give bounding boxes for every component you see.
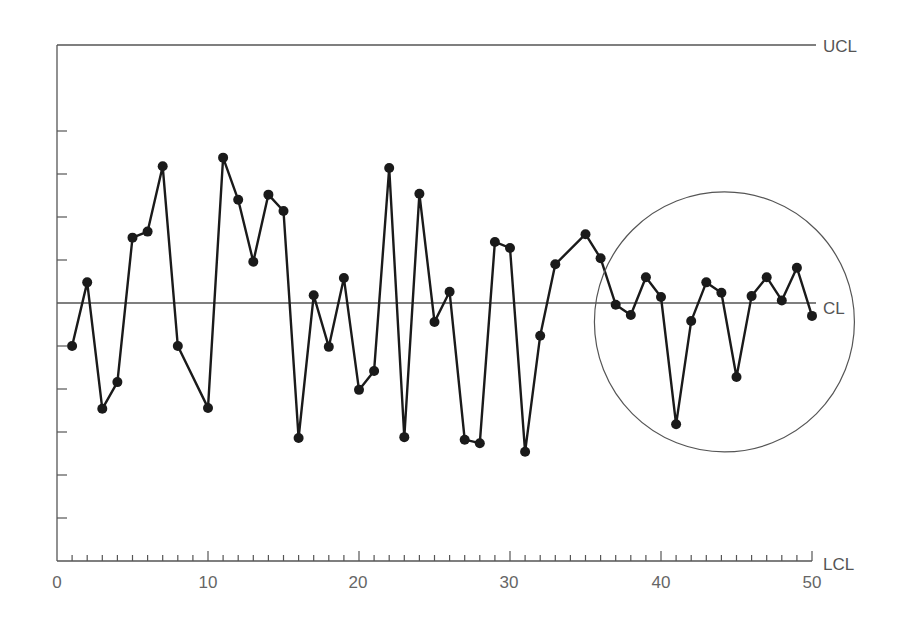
data-point (611, 300, 621, 310)
data-point (777, 295, 787, 305)
data-point (233, 195, 243, 205)
data-point (384, 163, 394, 173)
lcl-label: LCL (823, 555, 854, 574)
annotations (594, 192, 854, 452)
data-point (520, 447, 530, 457)
control-chart: UCL CL LCL 0 10 20 30 40 50 (0, 0, 917, 627)
data-point (218, 153, 228, 163)
data-point (414, 189, 424, 199)
data-point (505, 243, 515, 253)
data-point (445, 287, 455, 297)
data-point (263, 190, 273, 200)
data-point (686, 316, 696, 326)
data-point (248, 257, 258, 267)
data-point (460, 435, 470, 445)
data-point (173, 341, 183, 351)
cl-label: CL (823, 299, 845, 318)
data-point (716, 288, 726, 298)
data-point (656, 292, 666, 302)
data-point (339, 273, 349, 283)
data-point (294, 433, 304, 443)
x-tick-label-30: 30 (500, 573, 519, 592)
data-point (309, 290, 319, 300)
data-point (732, 372, 742, 382)
data-point (792, 263, 802, 273)
x-tick-label-50: 50 (803, 573, 822, 592)
data-point (671, 419, 681, 429)
data-series (67, 153, 817, 457)
data-point (641, 272, 651, 282)
axis-labels: UCL CL LCL 0 10 20 30 40 50 (52, 37, 857, 592)
data-point (354, 385, 364, 395)
data-point (158, 161, 168, 171)
data-point (82, 277, 92, 287)
data-point (143, 227, 153, 237)
data-point (97, 404, 107, 414)
data-point (112, 377, 122, 387)
highlight-circle (594, 192, 854, 452)
data-point (747, 291, 757, 301)
data-point (490, 237, 500, 247)
chart-canvas: UCL CL LCL 0 10 20 30 40 50 (0, 0, 917, 627)
data-point (807, 311, 817, 321)
axis-ticks (57, 131, 812, 561)
data-point (762, 272, 772, 282)
data-point (475, 438, 485, 448)
data-point (581, 229, 591, 239)
data-point (67, 341, 77, 351)
data-point (369, 366, 379, 376)
x-tick-label-40: 40 (652, 573, 671, 592)
x-tick-label-20: 20 (349, 573, 368, 592)
data-point (535, 331, 545, 341)
x-tick-label-10: 10 (199, 573, 218, 592)
data-point (430, 317, 440, 327)
data-point (203, 403, 213, 413)
data-point (128, 233, 138, 243)
series-line (72, 158, 812, 452)
data-point (399, 432, 409, 442)
data-point (550, 259, 560, 269)
data-point (324, 342, 334, 352)
data-point (596, 253, 606, 263)
x-tick-label-0: 0 (52, 573, 61, 592)
data-point (626, 310, 636, 320)
ucl-label: UCL (823, 37, 857, 56)
data-point (279, 206, 289, 216)
data-point (701, 277, 711, 287)
